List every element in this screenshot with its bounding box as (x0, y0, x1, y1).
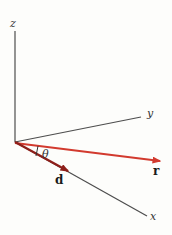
diagram-canvas: z y x r d θ (0, 0, 172, 235)
y-axis-label: y (146, 107, 154, 120)
z-axis-label: z (9, 17, 16, 30)
theta-angle-label: θ (42, 148, 49, 161)
vector-r-label: r (153, 164, 160, 178)
coordinate-diagram: z y x r d θ (0, 0, 172, 235)
x-axis-label: x (150, 210, 157, 223)
vector-d-label: d (55, 173, 64, 187)
